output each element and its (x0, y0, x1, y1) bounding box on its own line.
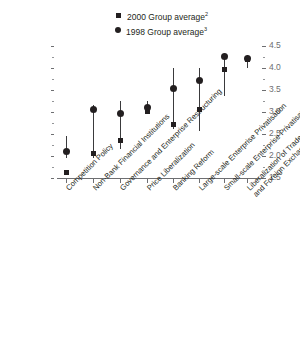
chart-container: 2000 Group average2 1998 Group average3 … (0, 0, 300, 359)
category-label-line: Competition Policy (64, 141, 115, 192)
y-axis-tick-label: 4.5 (269, 41, 281, 50)
range-line (93, 105, 94, 158)
plot-area: 4.54.03.53.02.52.01.5Competition PolicyN… (0, 0, 300, 359)
y-axis-left-minor-tick (52, 79, 54, 80)
y-axis-left-tick (51, 90, 54, 91)
y-axis-left-tick (51, 46, 54, 47)
y-axis-tick-label: 4.0 (269, 63, 281, 72)
y-axis-tick (262, 112, 266, 113)
y-axis-left-tick (51, 112, 54, 113)
y-axis-minor-tick (263, 79, 265, 80)
square-marker-2000 (145, 109, 150, 114)
square-marker-2000 (118, 138, 123, 143)
square-marker-2000 (245, 57, 250, 62)
square-marker-2000 (222, 67, 227, 72)
square-marker-2000 (91, 151, 96, 156)
square-marker-2000 (171, 122, 176, 127)
circle-marker-1998 (221, 53, 228, 60)
square-marker-2000 (64, 170, 69, 175)
y-axis-left-minor-tick (52, 145, 54, 146)
circle-marker-1998 (117, 110, 124, 117)
y-axis-left-minor-tick (52, 57, 54, 58)
y-axis-tick (262, 68, 266, 69)
circle-marker-1998 (170, 85, 177, 92)
y-axis-tick (262, 90, 266, 91)
y-axis-tick-label: 3.5 (269, 85, 281, 94)
y-axis-left-tick (51, 134, 54, 135)
y-axis-left-minor-tick (52, 123, 54, 124)
y-axis-left-minor-tick (52, 101, 54, 102)
circle-marker-1998 (63, 148, 70, 155)
x-axis-category-label: Competition Policy (64, 141, 115, 192)
y-axis-left-tick (51, 156, 54, 157)
circle-marker-1998 (90, 106, 97, 113)
square-marker-2000 (197, 107, 202, 112)
range-line (224, 57, 225, 97)
y-axis-left-minor-tick (52, 167, 54, 168)
y-axis-tick (262, 134, 266, 135)
y-axis-left-tick (51, 178, 54, 179)
y-axis-minor-tick (263, 101, 265, 102)
y-axis-left-tick (51, 68, 54, 69)
range-line (173, 68, 174, 130)
y-axis-tick (262, 46, 266, 47)
circle-marker-1998 (196, 77, 203, 84)
y-axis-minor-tick (263, 57, 265, 58)
